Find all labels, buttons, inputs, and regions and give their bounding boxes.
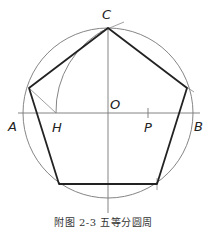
label-p: P [144, 120, 152, 135]
label-a: A [7, 119, 17, 134]
label-h: H [52, 120, 62, 135]
label-o: O [110, 97, 120, 112]
pentagon-construction-diagram: C O A H P B [0, 0, 207, 231]
label-c: C [102, 7, 112, 22]
label-b: B [194, 119, 203, 134]
figure-caption: 附图 2-3 五等分圆周 [0, 214, 207, 229]
